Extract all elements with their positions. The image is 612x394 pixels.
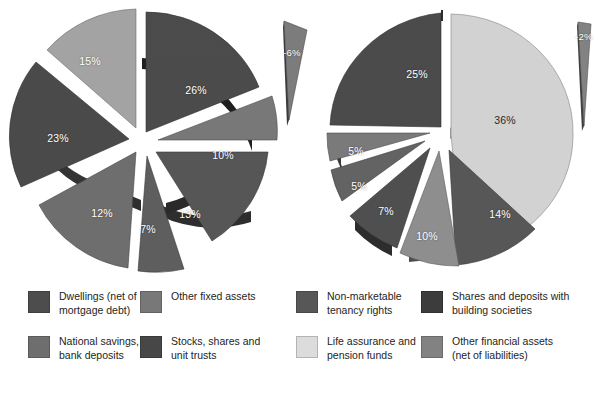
legend-label-other-fixed-assets: Other fixed assets [171, 290, 256, 304]
legend-item-non-marketable-tenancy-rights: Non-marketable tenancy rights [296, 290, 402, 317]
left-pie-svg [0, 0, 612, 278]
legend-item-shares-deposits-building-societies: Shares and deposits with building societ… [421, 290, 569, 317]
legend-swatch-icon-stocks-shares-unit-trusts [140, 336, 162, 358]
legend-swatch-icon-national-savings [28, 336, 50, 358]
legend-swatch-icon-life-assurance-pension-funds [296, 336, 318, 358]
legend-label-non-marketable-tenancy-rights: Non-marketable tenancy rights [327, 290, 402, 317]
legend-label-shares-deposits-building-societies: Shares and deposits with building societ… [452, 290, 569, 317]
left-slice-neg6 [283, 21, 307, 126]
legend-swatch-icon-non-marketable-tenancy-rights [296, 291, 318, 313]
legend-label-national-savings: National savings, bank deposits [59, 335, 139, 362]
legend-label-dwellings: Dwellings (net of mortgage debt) [59, 290, 137, 317]
legend-item-life-assurance-pension-funds: Life assurance and pension funds [296, 335, 416, 362]
legend-label-stocks-shares-unit-trusts: Stocks, shares and unit trusts [171, 335, 260, 362]
legend-label-other-financial-assets: Other financial assets (net of liabiliti… [452, 335, 553, 362]
legend-swatch-icon-dwellings [28, 291, 50, 313]
right-slice-neg2 [577, 22, 591, 131]
legend-item-stocks-shares-unit-trusts: Stocks, shares and unit trusts [140, 335, 260, 362]
legend-swatch-icon-other-financial-assets [421, 336, 443, 358]
legend-item-other-financial-assets: Other financial assets (net of liabiliti… [421, 335, 553, 362]
right-slice-25 [330, 13, 441, 127]
legend-item-other-fixed-assets: Other fixed assets [140, 290, 256, 313]
left-slice-13 [156, 152, 268, 241]
legend-item-dwellings: Dwellings (net of mortgage debt) [28, 290, 137, 317]
pie-charts-container: 26% 10% 13% 7% 12% 23% 15% -6% 36% 14% 1… [0, 0, 612, 278]
pie-chart-figure: 26% 10% 13% 7% 12% 23% 15% -6% 36% 14% 1… [0, 0, 612, 394]
legend-swatch-icon-shares-deposits-building-societies [421, 291, 443, 313]
legend-swatch-icon-other-fixed-assets [140, 291, 162, 313]
chart-legend: Dwellings (net of mortgage debt) Other f… [0, 282, 612, 394]
legend-item-national-savings: National savings, bank deposits [28, 335, 139, 362]
legend-label-life-assurance-pension-funds: Life assurance and pension funds [327, 335, 416, 362]
